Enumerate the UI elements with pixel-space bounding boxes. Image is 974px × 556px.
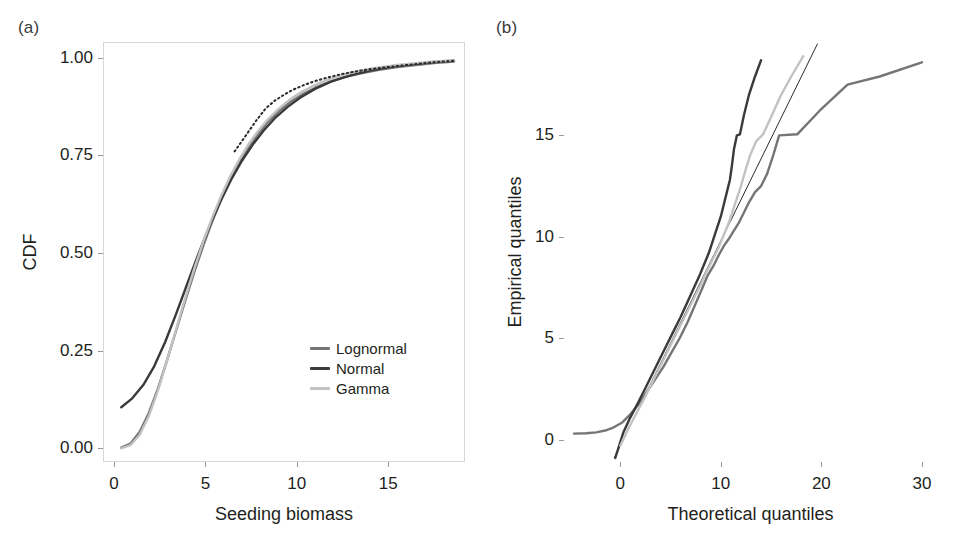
panel-a-x-tickmark <box>388 462 389 467</box>
panel-b-y-tickmark <box>559 440 564 441</box>
legend-item-lognormal: Lognormal <box>310 338 407 358</box>
panel-b-x-tickmark <box>922 462 923 467</box>
panel-a-y-tick-label: 1.00 <box>41 48 93 68</box>
panel-b-x-tick-label: 0 <box>616 474 625 494</box>
series-line-gamma <box>620 56 803 446</box>
panel-a-y-tickmark <box>98 351 103 352</box>
panel-a-y-tick-label: 0.25 <box>41 341 93 361</box>
panel-a-x-tick-label: 0 <box>109 474 118 494</box>
legend-label-gamma: Gamma <box>336 381 389 396</box>
panel-a-legend: Lognormal Normal Gamma <box>310 338 407 398</box>
panel-a-y-tick-label: 0.75 <box>41 145 93 165</box>
panel-a-y-tickmark <box>98 448 103 449</box>
panel-a-x-axis-title: Seeding biomass <box>215 504 353 525</box>
legend-swatch-gamma <box>310 387 330 390</box>
panel-a-y-tickmark <box>98 253 103 254</box>
panel-a-y-tick-label: 0.50 <box>41 243 93 263</box>
legend-swatch-lognormal <box>310 347 330 350</box>
legend-label-lognormal: Lognormal <box>336 341 407 356</box>
series-line-normal <box>615 60 761 458</box>
panel-a-y-tickmark <box>98 155 103 156</box>
panel-b: (b) Theoretical quantiles Empirical quan… <box>487 0 974 556</box>
panel-b-y-tickmark <box>559 135 564 136</box>
panel-b-curves <box>487 0 974 556</box>
panel-b-y-tick-label: 10 <box>502 227 554 247</box>
panel-b-x-tick-label: 10 <box>711 474 730 494</box>
panel-a-y-axis-title: CDF <box>20 234 41 271</box>
panel-b-x-tick-label: 20 <box>812 474 831 494</box>
panel-b-y-tick-label: 15 <box>502 125 554 145</box>
panel-a-x-tickmark <box>297 462 298 467</box>
panel-a-y-tick-label: 0.00 <box>41 438 93 458</box>
panel-a-curves <box>0 0 487 556</box>
legend-swatch-normal <box>310 367 330 370</box>
panel-a-x-tick-label: 15 <box>379 474 398 494</box>
panel-b-y-tickmark <box>559 338 564 339</box>
panel-a-x-tick-label: 10 <box>287 474 306 494</box>
panel-a-x-tickmark <box>114 462 115 467</box>
panel-a-x-tickmark <box>205 462 206 467</box>
panel-b-x-tickmark <box>721 462 722 467</box>
legend-item-normal: Normal <box>310 358 407 378</box>
series-line-empirical-ecdf <box>235 61 454 152</box>
panel-a: (a) Seeding biomass CDF Lognormal Normal… <box>0 0 487 556</box>
panel-b-y-tick-label: 0 <box>502 430 554 450</box>
panel-b-y-tickmark <box>559 237 564 238</box>
panel-a-x-tick-label: 5 <box>201 474 210 494</box>
legend-item-gamma: Gamma <box>310 378 407 398</box>
panel-b-y-tick-label: 5 <box>502 328 554 348</box>
figure-container: (a) Seeding biomass CDF Lognormal Normal… <box>0 0 974 556</box>
panel-b-x-tick-label: 30 <box>912 474 931 494</box>
panel-a-y-tickmark <box>98 58 103 59</box>
series-line-lognormal <box>574 62 922 433</box>
panel-b-x-axis-title: Theoretical quantiles <box>667 504 833 525</box>
panel-b-x-tickmark <box>620 462 621 467</box>
panel-b-y-axis-title: Empirical quantiles <box>505 176 526 327</box>
legend-label-normal: Normal <box>336 361 384 376</box>
panel-b-x-tickmark <box>821 462 822 467</box>
